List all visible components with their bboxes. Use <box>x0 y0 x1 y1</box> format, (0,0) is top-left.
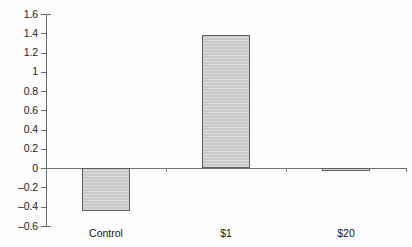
y-axis-tick-label: 0.4 <box>24 124 38 135</box>
y-axis-tick <box>41 207 46 208</box>
bar <box>82 168 130 210</box>
y-axis-top-cap <box>46 14 51 15</box>
y-axis-tick-label: 1.2 <box>24 47 38 58</box>
y-axis-tick-label: 1.4 <box>24 28 38 39</box>
y-axis-tick <box>41 110 46 111</box>
y-axis-tick <box>41 33 46 34</box>
x-axis-tick <box>166 168 167 172</box>
y-axis-tick <box>41 91 46 92</box>
y-axis-tick-label: 0.8 <box>24 86 38 97</box>
y-axis-tick-label: –0.4 <box>18 201 38 212</box>
y-axis-bottom-cap <box>46 226 51 227</box>
y-axis-tick <box>41 149 46 150</box>
x-axis-category-label: $20 <box>286 228 406 239</box>
y-axis-line <box>46 14 47 226</box>
y-axis-tick <box>41 14 46 15</box>
x-axis-category-label: $1 <box>166 228 286 239</box>
x-axis-tick <box>406 168 407 172</box>
y-axis-tick <box>41 53 46 54</box>
y-axis-tick <box>41 130 46 131</box>
bar-chart: 1.61.41.210.80.60.40.20–0.2–0.4–0.6 Cont… <box>0 0 412 247</box>
y-axis-tick-label: 0 <box>32 163 38 174</box>
y-axis-tick-label: 1 <box>32 66 38 77</box>
y-axis-tick-label: –0.6 <box>18 221 38 232</box>
y-axis-tick <box>41 226 46 227</box>
x-axis-tick <box>46 168 47 172</box>
y-axis-tick <box>41 72 46 73</box>
y-axis-tick-label: –0.2 <box>18 182 38 193</box>
x-axis-tick <box>286 168 287 172</box>
x-axis-category-label: Control <box>46 228 166 239</box>
y-axis-tick-label: 0.6 <box>24 105 38 116</box>
y-axis-tick-label: 1.6 <box>24 9 38 20</box>
y-axis-tick <box>41 187 46 188</box>
y-axis-tick-label: 0.2 <box>24 143 38 154</box>
bar <box>322 168 370 171</box>
bar <box>202 35 250 168</box>
